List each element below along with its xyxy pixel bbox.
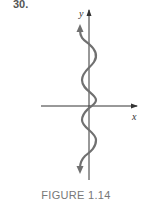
figure-caption: FIGURE 1.14	[0, 189, 152, 201]
graph-figure: y x	[0, 0, 152, 220]
curve-arrow-top-icon	[77, 24, 84, 32]
y-axis-label: y	[78, 8, 84, 19]
x-axis-label: x	[131, 111, 137, 122]
sine-curve	[80, 30, 96, 168]
curve-arrow-bottom-icon	[77, 166, 84, 174]
